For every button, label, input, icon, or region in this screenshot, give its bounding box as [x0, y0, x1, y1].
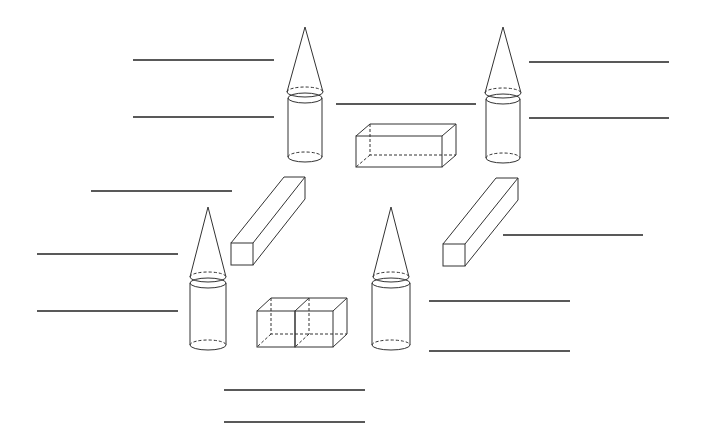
- cylinder-top-left: [288, 93, 322, 162]
- cone-top-left: [287, 27, 323, 97]
- cylinder-bottom-right: [372, 278, 410, 350]
- geometry-worksheet: [0, 0, 708, 445]
- cylinder-top-right: [486, 94, 520, 163]
- answer-lines: [37, 60, 669, 422]
- rectangular-prism-center: [356, 124, 456, 167]
- cone-bottom-right: [373, 207, 409, 282]
- double-cube: [257, 298, 347, 347]
- cone-top-right: [485, 27, 521, 98]
- long-prism-right: [443, 178, 518, 266]
- cylinder-bottom-left: [190, 278, 226, 350]
- cone-bottom-left: [190, 207, 226, 282]
- long-prism-left: [231, 177, 305, 265]
